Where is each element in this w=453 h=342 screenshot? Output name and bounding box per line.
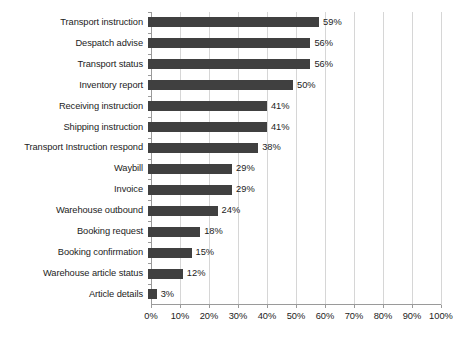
bar-track: 3% [148,284,447,305]
x-axis-tick [180,305,181,308]
category-label: Receiving instruction [0,101,148,112]
x-axis-tick [412,305,413,308]
x-axis-tick [151,305,152,308]
category-label: Transport Instruction respond [0,142,148,153]
category-label: Invoice [0,184,148,195]
bar-track: 29% [148,158,447,179]
bar-row: Warehouse article status12% [0,263,447,284]
x-axis-tick-label: 30% [229,310,248,322]
bar [148,227,200,237]
bar-row: Receiving instruction41% [0,96,447,117]
bar-row: Booking confirmation15% [0,242,447,263]
category-label: Warehouse outbound [0,205,148,216]
bar [148,206,218,216]
x-axis-tick-label: 50% [287,310,306,322]
x-axis-tick-label: 70% [345,310,364,322]
bar-track: 56% [148,33,447,54]
bar-track: 38% [148,138,447,159]
bar-track: 41% [148,96,447,117]
category-label: Warehouse article status [0,268,148,279]
x-axis-tick-label: 100% [429,310,453,322]
bar-track: 41% [148,117,447,138]
bar-value-label: 38% [262,142,281,153]
bar-row: Despatch advise56% [0,33,447,54]
bar-row: Inventory report50% [0,75,447,96]
bar-value-label: 41% [271,122,290,133]
category-label: Shipping instruction [0,122,148,133]
category-label: Booking confirmation [0,247,148,258]
x-axis-tick-label: 60% [316,310,335,322]
bar-value-label: 59% [323,17,342,28]
x-axis-tick-label: 0% [144,310,157,322]
x-axis-tick-label: 40% [258,310,277,322]
bar-value-label: 18% [204,226,223,237]
bar [148,269,183,279]
bar-track: 15% [148,242,447,263]
bar-value-label: 41% [271,101,290,112]
category-label: Article details [0,289,148,300]
category-label: Despatch advise [0,38,148,49]
x-axis-tick [296,305,297,308]
bar [148,289,157,299]
bar [148,80,293,90]
x-axis-tick [267,305,268,308]
bar-value-label: 15% [196,247,215,258]
bar-track: 18% [148,221,447,242]
category-label: Transport status [0,59,148,70]
bar-value-label: 29% [236,184,255,195]
bar-row: Transport instruction59% [0,12,447,33]
category-label: Booking request [0,226,148,237]
category-label: Waybill [0,163,148,174]
x-axis-tick [354,305,355,308]
bar-row: Invoice29% [0,179,447,200]
bar-rows: Transport instruction59%Despatch advise5… [0,12,447,305]
bar [148,38,310,48]
x-axis-tick [383,305,384,308]
bar-row: Transport status56% [0,54,447,75]
bar-row: Waybill29% [0,158,447,179]
bar-row: Warehouse outbound24% [0,200,447,221]
category-label: Inventory report [0,80,148,91]
bar-value-label: 29% [236,163,255,174]
bar-row: Booking request18% [0,221,447,242]
bar-track: 50% [148,75,447,96]
x-axis-tick [441,305,442,308]
bar-value-label: 56% [314,38,333,49]
x-axis-tick-labels: 0%10%20%30%40%50%60%70%80%90%100% [151,310,441,324]
bar-row: Transport Instruction respond38% [0,138,447,159]
bar-value-label: 56% [314,59,333,70]
bar [148,248,192,258]
bar-value-label: 24% [222,205,241,216]
x-axis-tick-label: 80% [374,310,393,322]
bar [148,59,310,69]
bar [148,17,319,27]
category-label: Transport instruction [0,17,148,28]
bar [148,164,232,174]
bar-row: Article details3% [0,284,447,305]
bar-value-label: 50% [297,80,316,91]
bar [148,185,232,195]
bar-value-label: 12% [187,268,206,279]
bar-track: 29% [148,179,447,200]
bar-track: 59% [148,12,447,33]
bar-track: 12% [148,263,447,284]
bar-track: 24% [148,200,447,221]
bar-track: 56% [148,54,447,75]
x-axis-tick [238,305,239,308]
x-axis-tick-label: 20% [200,310,219,322]
bar [148,122,267,132]
x-axis-tick-label: 10% [171,310,190,322]
x-axis-tick [209,305,210,308]
bar-row: Shipping instruction41% [0,117,447,138]
x-axis-tick-label: 90% [403,310,422,322]
bar-value-label: 3% [161,289,174,300]
bar [148,101,267,111]
bar [148,143,258,153]
x-axis-tick [325,305,326,308]
